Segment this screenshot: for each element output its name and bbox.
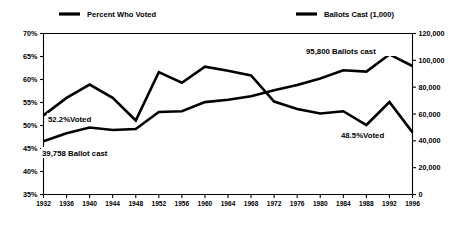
x-tick-label: 1936 bbox=[59, 200, 74, 207]
right-tick-label: 80,000 bbox=[419, 83, 441, 92]
right-tick-label: 100,000 bbox=[419, 56, 445, 65]
x-tick-label: 1984 bbox=[336, 200, 351, 207]
x-tick-label: 1932 bbox=[36, 200, 51, 207]
x-tick-label: 1956 bbox=[175, 200, 190, 207]
x-tick-label: 1968 bbox=[244, 200, 259, 207]
left-tick-label: 50% bbox=[23, 121, 38, 130]
right-tick-label: 120,000 bbox=[419, 29, 445, 38]
left-tick-label: 65% bbox=[23, 52, 38, 61]
right-tick-label: 0 bbox=[419, 190, 423, 199]
x-tick-label: 1940 bbox=[82, 200, 97, 207]
legend-label-percent-who-voted: Percent Who Voted bbox=[87, 10, 156, 19]
x-tick-label: 1964 bbox=[221, 200, 236, 207]
x-tick-label: 1996 bbox=[405, 200, 420, 207]
left-axis-ticks: 35%40%45%50%55%60%65%70% bbox=[23, 29, 43, 199]
left-tick-label: 70% bbox=[23, 29, 38, 38]
annotation-right-percent: 48.5%Voted bbox=[341, 131, 384, 140]
x-tick-label: 1948 bbox=[128, 200, 143, 207]
annotation-left-ballots: 39,758 Ballot cast bbox=[42, 149, 108, 158]
left-tick-label: 35% bbox=[23, 190, 38, 199]
left-tick-label: 60% bbox=[23, 75, 38, 84]
x-tick-label: 1944 bbox=[105, 200, 120, 207]
left-tick-label: 55% bbox=[23, 98, 38, 107]
x-tick-label: 1960 bbox=[198, 200, 213, 207]
x-tick-label: 1976 bbox=[290, 200, 305, 207]
x-tick-label: 1980 bbox=[313, 200, 328, 207]
x-axis-ticks: 1932193619401944194819521956196019641968… bbox=[36, 195, 420, 208]
voter-turnout-chart: Percent Who Voted Ballots Cast (1,000) 3… bbox=[0, 0, 457, 226]
right-tick-label: 60,000 bbox=[419, 110, 441, 119]
annotation-right-ballots: 95,800 Ballots cast bbox=[306, 47, 376, 56]
annotation-left-percent: 52.2%Voted bbox=[48, 115, 91, 124]
right-tick-label: 20,000 bbox=[419, 163, 441, 172]
right-tick-label: 40,000 bbox=[419, 136, 441, 145]
left-tick-label: 45% bbox=[23, 144, 38, 153]
chart-svg: Percent Who Voted Ballots Cast (1,000) 3… bbox=[0, 0, 457, 226]
x-tick-label: 1992 bbox=[382, 200, 397, 207]
chart-annotations: 52.2%Voted 39,758 Ballot cast 95,800 Bal… bbox=[41, 45, 410, 158]
left-tick-label: 40% bbox=[23, 167, 38, 176]
legend-label-ballots-cast: Ballots Cast (1,000) bbox=[324, 10, 395, 19]
right-axis-ticks: 020,00040,00060,00080,000100,000120,000 bbox=[413, 29, 445, 199]
x-tick-label: 1972 bbox=[267, 200, 282, 207]
chart-legend: Percent Who Voted Ballots Cast (1,000) bbox=[59, 10, 395, 19]
x-tick-label: 1988 bbox=[359, 200, 374, 207]
series-line-ballots-cast bbox=[44, 54, 413, 141]
x-tick-label: 1952 bbox=[151, 200, 166, 207]
chart-series bbox=[44, 54, 413, 141]
